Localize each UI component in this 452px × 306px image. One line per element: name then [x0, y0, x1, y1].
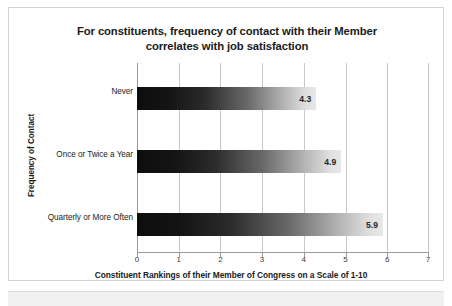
category-label-once-or-twice-a-year: Once or Twice a Year — [56, 150, 133, 159]
bottom-content-strip — [8, 291, 444, 306]
x-tick-label-2: 2 — [210, 255, 230, 264]
x-tick-label-6: 6 — [377, 255, 397, 264]
bar-value-quarterly-or-more-often: 5.9 — [366, 220, 378, 230]
plot-area: 4.3 4.9 5.9 — [137, 63, 429, 253]
x-tick-label-1: 1 — [169, 255, 189, 264]
x-tick-label-0: 0 — [127, 255, 147, 264]
x-tick-label-5: 5 — [336, 255, 356, 264]
category-axis-labels: Never Once or Twice a Year Quarterly or … — [9, 63, 133, 253]
chart-frame: For constituents, frequency of contact w… — [8, 7, 444, 281]
x-axis-tick-labels: 0 1 2 3 4 5 6 7 — [137, 255, 429, 269]
x-tick-label-4: 4 — [294, 255, 314, 264]
category-label-quarterly-or-more-often: Quarterly or More Often — [48, 213, 133, 222]
bar-row-quarterly-or-more-often: 5.9 — [137, 63, 429, 253]
bar-quarterly-or-more-often[interactable]: 5.9 — [137, 213, 383, 236]
x-tick-label-3: 3 — [252, 255, 272, 264]
category-label-never: Never — [111, 87, 133, 96]
x-axis-title: Constituent Rankings of their Member of … — [35, 270, 427, 280]
x-tick-label-7: 7 — [418, 255, 438, 264]
chart-title-line-2: correlates with job satisfaction — [146, 40, 309, 52]
chart-title-line-1: For constituents, frequency of contact w… — [77, 25, 377, 37]
chart-title: For constituents, frequency of contact w… — [35, 24, 419, 54]
